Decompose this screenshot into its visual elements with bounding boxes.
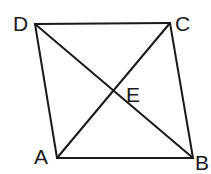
side-bc <box>170 23 193 158</box>
diagonal-bd <box>35 24 193 158</box>
label-c: C <box>175 12 190 35</box>
label-e: E <box>126 83 140 106</box>
label-a: A <box>34 145 48 168</box>
label-b: B <box>195 151 209 174</box>
side-cd <box>35 23 170 24</box>
quadrilateral-diagram: D C E A B <box>0 0 211 174</box>
side-da <box>35 24 57 158</box>
label-d: D <box>13 12 28 35</box>
